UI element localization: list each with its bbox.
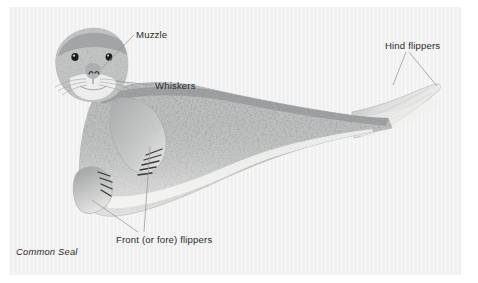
seal-eye-right [106, 53, 113, 60]
leader-line-hind-1 [393, 52, 406, 85]
figure-caption: Common Seal [16, 246, 78, 257]
leader-line-hind-2 [409, 52, 437, 86]
label-hind-flippers: Hind flippers [385, 40, 440, 51]
label-front-flippers: Front (or fore) flippers [116, 234, 212, 245]
label-whiskers: Whiskers [155, 80, 196, 91]
seal-eye-left [71, 53, 78, 61]
seal-diagram-figure: Muzzle Whiskers Hind flippers Front (or … [0, 0, 478, 283]
label-muzzle: Muzzle [136, 29, 167, 40]
